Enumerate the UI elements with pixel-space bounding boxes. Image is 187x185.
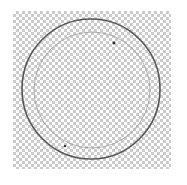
transparency-checkerboard[interactable] — [13, 11, 171, 169]
canvas-root[interactable]: Untitled Canvas transparent — [0, 0, 187, 185]
